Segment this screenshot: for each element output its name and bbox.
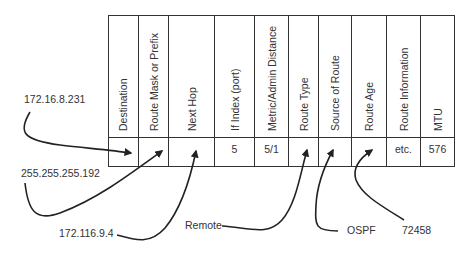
arrow-route-mask (25, 151, 162, 216)
arrow-destination (24, 112, 131, 153)
callout-route-mask-value: 255.255.255.192 (21, 167, 100, 179)
arrow-source-of-route (316, 150, 338, 231)
arrow-route-type (222, 150, 307, 230)
routing-table-diagram: Destination Route Mask or Prefix Next Ho… (0, 0, 467, 255)
callout-route-type-value: Remote (185, 219, 222, 231)
callout-source-of-route-value: OSPF (347, 224, 376, 236)
callout-destination-value: 172.16.8.231 (24, 93, 85, 105)
callout-route-age-value: 72458 (402, 224, 431, 236)
callout-arrows (0, 0, 467, 255)
arrow-route-age (355, 150, 404, 220)
callout-next-hop-value: 172.116.9.4 (59, 227, 114, 239)
